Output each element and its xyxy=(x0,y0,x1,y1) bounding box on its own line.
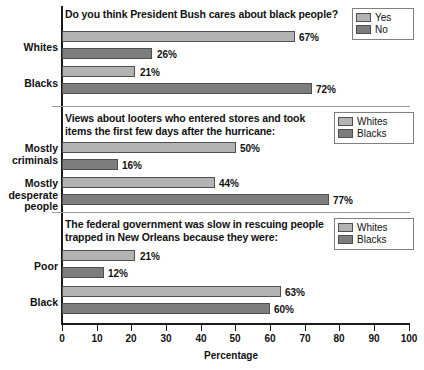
x-axis-title-text: Percentage xyxy=(166,350,258,361)
bar-value-whites-no: 26% xyxy=(157,49,177,60)
panel-2-title: Views about looters who entered stores a… xyxy=(65,112,305,137)
tick-mark-100 xyxy=(409,325,410,331)
tick-mark-90 xyxy=(374,325,375,331)
x-axis-title: Percentage xyxy=(0,350,424,361)
tick-label-60: 60 xyxy=(250,333,290,344)
bar-value-poor-whites: 21% xyxy=(140,251,160,262)
bar-value-criminals-whites: 50% xyxy=(240,143,260,154)
bar-black-blacks xyxy=(62,303,270,314)
tick-mark-30 xyxy=(166,325,167,331)
bar-blacks-yes xyxy=(62,66,135,77)
legend-label-yes: Yes xyxy=(375,12,391,23)
category-label-mostly-desperate: Mostly desperate people xyxy=(0,178,58,213)
bar-whites-no xyxy=(62,48,152,59)
legend-row-blacks-p3: Blacks xyxy=(338,233,409,245)
tick-label-100: 100 xyxy=(389,333,424,344)
legend-row-whites-p3: Whites xyxy=(338,221,409,233)
legend-swatch-light-icon xyxy=(338,117,353,126)
bar-whites-yes xyxy=(62,31,295,42)
category-label-whites-p1: Whites xyxy=(0,42,58,54)
tick-mark-60 xyxy=(270,325,271,331)
legend-swatch-dark-icon xyxy=(338,235,353,244)
tick-label-80: 80 xyxy=(319,333,359,344)
tick-label-20: 20 xyxy=(111,333,151,344)
panel-1-legend: Yes No xyxy=(352,8,414,40)
tick-label-30: 30 xyxy=(146,333,186,344)
bar-value-desperate-blacks: 77% xyxy=(333,195,353,206)
panel-2-legend: Whites Blacks xyxy=(334,112,414,144)
bar-value-black-whites: 63% xyxy=(285,287,305,298)
tick-mark-10 xyxy=(97,325,98,331)
tick-mark-70 xyxy=(305,325,306,331)
bar-poor-blacks xyxy=(62,267,104,278)
legend-swatch-light-icon xyxy=(356,13,371,22)
legend-label-blacks-p3: Blacks xyxy=(357,234,386,245)
legend-label-whites-p2: Whites xyxy=(357,116,388,127)
bar-poor-whites xyxy=(62,250,135,261)
survey-bar-chart: Do you think President Bush cares about … xyxy=(0,0,424,370)
panel-separator-2 xyxy=(52,212,410,213)
category-label-blacks-p1: Blacks xyxy=(0,78,58,90)
tick-label-0: 0 xyxy=(42,333,82,344)
bar-value-poor-blacks: 12% xyxy=(108,268,128,279)
bar-criminals-whites xyxy=(62,142,236,153)
bar-value-black-blacks: 60% xyxy=(274,304,294,315)
legend-row-no: No xyxy=(356,23,409,35)
bar-value-blacks-yes: 21% xyxy=(140,67,160,78)
legend-row-whites-p2: Whites xyxy=(338,115,409,127)
legend-row-yes: Yes xyxy=(356,11,409,23)
panel-3-title: The federal government was slow in rescu… xyxy=(65,218,324,243)
legend-label-blacks-p2: Blacks xyxy=(357,128,386,139)
bar-blacks-no xyxy=(62,83,312,94)
bar-black-whites xyxy=(62,286,281,297)
legend-swatch-dark-icon xyxy=(356,25,371,34)
tick-label-90: 90 xyxy=(354,333,394,344)
bar-criminals-blacks xyxy=(62,159,118,170)
tick-mark-80 xyxy=(339,325,340,331)
category-label-mostly-criminals: Mostly criminals xyxy=(0,143,58,166)
legend-swatch-dark-icon xyxy=(338,129,353,138)
legend-row-blacks-p2: Blacks xyxy=(338,127,409,139)
tick-label-50: 50 xyxy=(215,333,255,344)
tick-mark-20 xyxy=(131,325,132,331)
tick-mark-0 xyxy=(62,325,63,331)
panel-1-title: Do you think President Bush cares about … xyxy=(65,8,338,21)
panel-separator-1 xyxy=(52,106,410,107)
tick-mark-50 xyxy=(235,325,236,331)
legend-label-whites-p3: Whites xyxy=(357,222,388,233)
bar-value-desperate-whites: 44% xyxy=(219,178,239,189)
bar-value-criminals-blacks: 16% xyxy=(122,160,142,171)
bar-desperate-blacks xyxy=(62,194,329,205)
bar-value-whites-yes: 67% xyxy=(299,32,319,43)
panel-3-legend: Whites Blacks xyxy=(334,218,414,250)
legend-label-no: No xyxy=(375,24,388,35)
bar-desperate-whites xyxy=(62,177,215,188)
category-label-poor: Poor xyxy=(0,261,58,273)
bar-value-blacks-no: 72% xyxy=(316,84,336,95)
category-label-black: Black xyxy=(0,297,58,309)
tick-mark-40 xyxy=(201,325,202,331)
legend-swatch-light-icon xyxy=(338,223,353,232)
